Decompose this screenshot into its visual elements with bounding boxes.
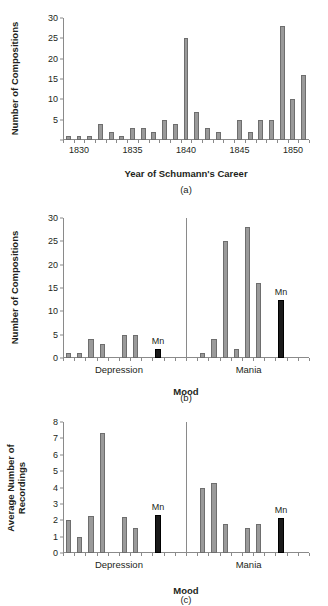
bar <box>151 132 156 140</box>
bar <box>245 227 250 358</box>
bar-highlight <box>155 515 160 553</box>
x-tick-mark <box>97 553 98 556</box>
x-tick-mark <box>186 358 187 361</box>
y-tick-label: 20 <box>48 54 63 63</box>
x-tick-mark <box>245 140 246 143</box>
y-tick-label: 5 <box>53 467 63 476</box>
x-tick-mark <box>149 140 150 143</box>
x-tick-mark <box>287 553 288 556</box>
x-tick-mark <box>202 140 203 143</box>
chart-c-caption: (c) <box>180 594 191 605</box>
bar <box>184 38 189 140</box>
bar <box>237 120 242 140</box>
x-tick-label: 1835 <box>123 145 143 155</box>
x-tick-mark <box>191 140 192 143</box>
bar <box>216 132 221 140</box>
group-divider <box>186 218 187 358</box>
bar <box>77 353 82 358</box>
x-tick-mark <box>181 140 182 143</box>
bar-highlight <box>278 518 283 553</box>
y-tick-label: 3 <box>53 499 63 508</box>
chart-c-y-axis-line <box>63 422 64 553</box>
bar-annotation-mn: Mn <box>275 287 288 297</box>
x-tick-mark <box>242 553 243 556</box>
x-tick-mark <box>85 553 86 556</box>
x-tick-mark <box>234 140 235 143</box>
y-tick-label: 10 <box>48 307 63 316</box>
bar <box>88 339 93 358</box>
x-tick-mark <box>186 553 187 556</box>
y-tick-label: 20 <box>48 260 63 269</box>
y-tick-label: 6 <box>53 450 63 459</box>
x-tick-mark <box>141 553 142 556</box>
x-tick-mark <box>119 358 120 361</box>
x-tick-mark <box>95 140 96 143</box>
bar <box>256 524 261 553</box>
x-tick-mark <box>277 140 278 143</box>
x-tick-mark <box>63 358 64 361</box>
x-tick-mark <box>159 140 160 143</box>
y-tick-label: 0 <box>53 354 63 363</box>
x-tick-mark <box>175 358 176 361</box>
x-tick-mark <box>197 358 198 361</box>
bar <box>130 128 135 140</box>
bar-annotation-mn: Mn <box>152 336 165 346</box>
y-tick-label: 8 <box>53 418 63 427</box>
x-tick-mark <box>253 358 254 361</box>
x-tick-mark <box>309 553 310 556</box>
bar <box>211 339 216 358</box>
x-tick-mark <box>208 358 209 361</box>
figure-root: Number of Compositions 51015202530183018… <box>0 0 328 606</box>
x-tick-mark <box>74 553 75 556</box>
x-tick-mark <box>164 358 165 361</box>
x-tick-mark <box>298 358 299 361</box>
bar <box>119 136 124 140</box>
chart-a-caption: (a) <box>180 184 192 195</box>
chart-c-plot-area: 012345678MnMnDepressionMania <box>63 422 309 553</box>
bar <box>248 132 253 140</box>
bar <box>269 120 274 140</box>
x-tick-mark <box>220 358 221 361</box>
x-tick-mark <box>164 553 165 556</box>
x-tick-mark <box>298 553 299 556</box>
bar <box>122 517 127 553</box>
y-tick-label: 15 <box>48 284 63 293</box>
y-tick-label: 10 <box>48 95 63 104</box>
bar <box>173 124 178 140</box>
group-label: Depression <box>95 559 143 570</box>
x-tick-mark <box>119 553 120 556</box>
bar <box>66 136 71 140</box>
bar <box>77 136 82 140</box>
chart-c-y-axis-title: Average Number of Recordings <box>4 422 26 553</box>
group-label: Mania <box>236 364 262 375</box>
x-tick-mark <box>127 140 128 143</box>
chart-panel-a: Number of Compositions 51015202530183018… <box>0 0 328 196</box>
x-tick-mark <box>106 140 107 143</box>
y-tick-label: 7 <box>53 434 63 443</box>
x-tick-mark <box>152 553 153 556</box>
x-tick-label: 1830 <box>69 145 89 155</box>
x-tick-mark <box>287 358 288 361</box>
bar <box>109 132 114 140</box>
bar-annotation-mn: Mn <box>152 502 165 512</box>
y-tick-label: 1 <box>53 532 63 541</box>
bar-annotation-mn: Mn <box>275 505 288 515</box>
x-tick-mark <box>288 140 289 143</box>
bar <box>162 120 167 140</box>
chart-a-plot-area: 5101520253018301835184018451850 <box>63 18 309 140</box>
bar <box>290 99 295 140</box>
x-tick-label: 1840 <box>176 145 196 155</box>
x-tick-mark <box>220 553 221 556</box>
y-tick-label: 30 <box>48 214 63 223</box>
x-tick-mark <box>242 358 243 361</box>
bar <box>66 353 71 358</box>
x-tick-mark <box>138 140 139 143</box>
x-tick-mark <box>84 140 85 143</box>
x-tick-mark <box>141 358 142 361</box>
bar <box>66 520 71 553</box>
bar <box>77 537 82 553</box>
bar <box>258 120 263 140</box>
x-tick-mark <box>97 358 98 361</box>
y-tick-label: 5 <box>53 115 63 124</box>
x-tick-mark <box>130 358 131 361</box>
